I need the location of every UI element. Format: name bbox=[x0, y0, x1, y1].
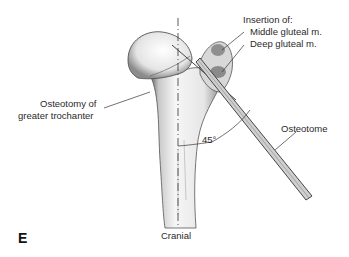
panel-letter: E bbox=[18, 230, 27, 246]
osteotomy-label-line1: Osteotomy of bbox=[40, 98, 97, 109]
cranial-orientation-label: Cranial bbox=[161, 230, 191, 241]
leader-osteotomy bbox=[104, 92, 150, 108]
femoral-head bbox=[128, 32, 192, 79]
middle-gluteal-label: Middle gluteal m. bbox=[250, 26, 322, 37]
middle-gluteal-insertion bbox=[211, 44, 225, 56]
leader-osteotome bbox=[275, 132, 296, 150]
osteotome-label: Osteotome bbox=[281, 123, 327, 134]
femur-shaft bbox=[150, 68, 222, 228]
deep-gluteal-label: Deep gluteal m. bbox=[250, 38, 317, 49]
leader-middle-gluteal bbox=[222, 32, 244, 50]
insertion-title-label: Insertion of: bbox=[243, 14, 293, 25]
osteotomy-label-line2: greater trochanter bbox=[18, 110, 94, 121]
angle-label: 45° bbox=[202, 134, 216, 145]
